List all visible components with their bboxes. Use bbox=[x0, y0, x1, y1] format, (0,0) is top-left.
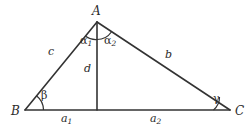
subscript-alpha2: 2 bbox=[111, 39, 116, 48]
subscript-a1: 1 bbox=[68, 117, 73, 126]
angle-label-gamma: γ bbox=[213, 93, 220, 104]
angle-label-alpha2: α2 bbox=[104, 35, 116, 48]
vertex-label-c: C bbox=[235, 105, 244, 117]
triangle-figure bbox=[0, 0, 252, 133]
side-label-d: d bbox=[84, 63, 91, 74]
angle-label-alpha1: α1 bbox=[80, 35, 92, 48]
side-label-a1: a1 bbox=[61, 113, 72, 126]
segment-side-b bbox=[97, 22, 230, 110]
side-label-c: c bbox=[48, 46, 54, 57]
geometry-diagram: A B C c b d a1 a2 α1 α2 β γ bbox=[0, 0, 252, 133]
vertex-label-b: B bbox=[11, 105, 20, 117]
side-label-a2: a2 bbox=[150, 113, 161, 126]
subscript-alpha1: 1 bbox=[87, 39, 92, 48]
angle-label-beta: β bbox=[41, 90, 47, 101]
side-label-b: b bbox=[165, 49, 172, 60]
vertex-label-a: A bbox=[92, 5, 101, 17]
subscript-a2: 2 bbox=[157, 117, 162, 126]
